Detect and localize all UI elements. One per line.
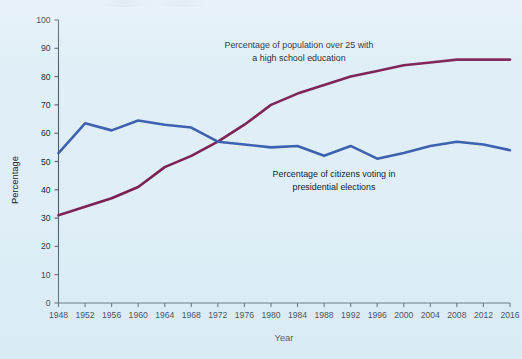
purple-series-annotation-line1: Percentage of population over 25 with [224,40,373,50]
chart-figure: 0102030405060708090100 19481952195619601… [0,0,522,359]
y-tick-label: 90 [41,43,51,53]
x-tick-label: 1948 [49,310,68,320]
x-axis-title: Year [275,332,294,343]
x-tick-label: 2012 [474,310,493,320]
data-series-group [59,60,511,216]
y-tick-label: 30 [41,213,51,223]
x-tick-label: 1976 [235,310,254,320]
line-chart-plot: 0102030405060708090100 19481952195619601… [0,0,522,359]
y-tick-label: 10 [41,270,51,280]
y-tick-label: 0 [46,298,51,308]
y-tick-label: 80 [41,72,51,82]
cropped-caption-remnant [96,0,216,7]
x-tick-label: 1960 [129,310,148,320]
x-tick-label: 1992 [341,310,360,320]
x-tick-label: 1972 [208,310,227,320]
x-tick-label: 1984 [288,310,307,320]
y-tick-label: 100 [36,15,51,25]
x-tick-label: 1964 [155,310,174,320]
purple-series-annotation-line2: a high school education [252,53,345,63]
x-tick-label: 2004 [421,310,440,320]
y-axis-title: Percentage [9,156,20,204]
x-axis-ticks: 1948195219561960196419681972197619801984… [49,303,520,320]
series-line-high-school-education [59,60,511,216]
x-tick-label: 1956 [102,310,121,320]
series-line-voter-turnout [59,120,511,158]
x-tick-label: 2016 [500,310,519,320]
blue-series-annotation-line1: Percentage of citizens voting in [273,169,396,179]
x-tick-label: 1968 [182,310,201,320]
y-tick-label: 20 [41,241,51,251]
x-tick-label: 2000 [394,310,413,320]
x-tick-label: 1952 [75,310,94,320]
y-tick-label: 50 [41,157,51,167]
x-tick-label: 1988 [315,310,334,320]
y-tick-label: 70 [41,100,51,110]
y-axis-ticks: 0102030405060708090100 [36,15,58,308]
y-tick-label: 40 [41,185,51,195]
blue-series-annotation-line2: presidential elections [293,182,376,192]
x-tick-label: 1980 [261,310,280,320]
x-tick-label: 1996 [368,310,387,320]
x-tick-label: 2008 [447,310,466,320]
y-tick-label: 60 [41,128,51,138]
